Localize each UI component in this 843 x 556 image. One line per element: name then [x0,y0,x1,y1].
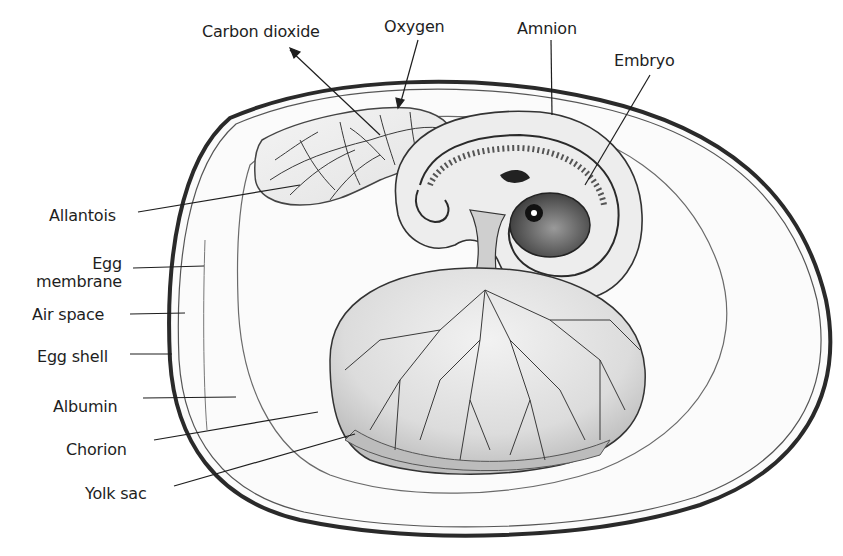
label-egg-shell: Egg shell [37,348,108,366]
label-air-space: Air space [32,306,104,324]
yolk-sac [330,268,645,474]
label-egg-membrane-line2: membrane [36,272,122,291]
label-albumin: Albumin [53,398,117,416]
label-carbon-dioxide: Carbon dioxide [202,23,320,41]
egg-embryo-diagram [0,0,843,556]
label-amnion: Amnion [517,20,577,38]
label-chorion: Chorion [66,441,127,459]
label-yolk-sac: Yolk sac [85,485,147,503]
label-embryo: Embryo [614,52,675,70]
label-egg-membrane: Egg membrane [20,255,122,291]
label-oxygen: Oxygen [384,18,444,36]
label-allantois: Allantois [49,207,116,225]
label-egg-membrane-line1: Egg [92,254,122,273]
